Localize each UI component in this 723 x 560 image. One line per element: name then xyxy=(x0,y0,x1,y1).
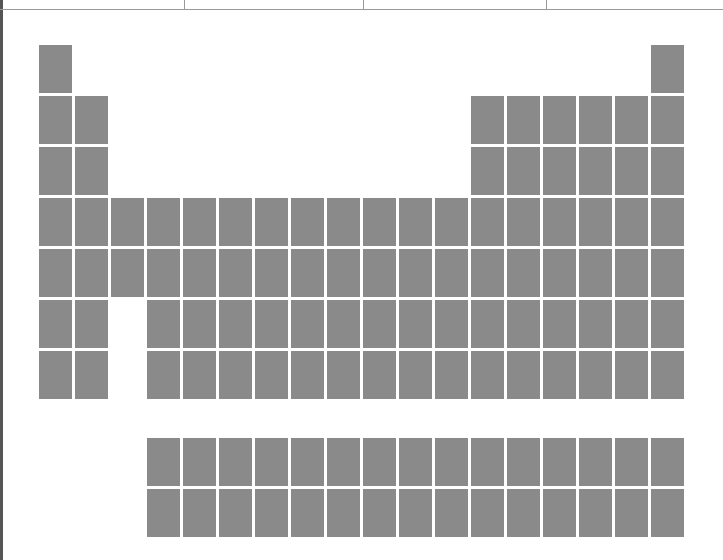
element-cell xyxy=(75,249,108,297)
element-cell xyxy=(363,198,396,246)
element-cell xyxy=(183,249,216,297)
header-divider xyxy=(363,0,364,10)
element-cell xyxy=(651,249,684,297)
element-cell xyxy=(39,147,72,195)
f-block-cell xyxy=(363,438,396,486)
f-block-cell xyxy=(435,438,468,486)
element-cell xyxy=(543,351,576,399)
element-cell xyxy=(75,147,108,195)
f-block-cell xyxy=(435,489,468,537)
element-cell xyxy=(579,198,612,246)
element-cell xyxy=(183,300,216,348)
element-cell xyxy=(543,147,576,195)
element-cell xyxy=(147,300,180,348)
f-block-cell xyxy=(291,438,324,486)
element-cell xyxy=(183,198,216,246)
element-cell xyxy=(111,249,144,297)
f-block-cell xyxy=(471,438,504,486)
element-cell xyxy=(291,249,324,297)
element-cell xyxy=(147,249,180,297)
element-cell xyxy=(471,147,504,195)
header-divider xyxy=(184,0,185,10)
element-cell xyxy=(435,249,468,297)
element-cell xyxy=(183,351,216,399)
f-block-cell xyxy=(219,489,252,537)
element-cell xyxy=(615,147,648,195)
element-cell xyxy=(399,300,432,348)
element-cell xyxy=(507,351,540,399)
f-block-cell xyxy=(543,438,576,486)
f-block-cell xyxy=(147,438,180,486)
element-cell xyxy=(219,198,252,246)
element-cell xyxy=(219,300,252,348)
element-cell xyxy=(579,300,612,348)
element-cell xyxy=(651,300,684,348)
element-cell xyxy=(615,300,648,348)
element-cell xyxy=(651,96,684,144)
element-cell xyxy=(543,249,576,297)
element-cell xyxy=(219,351,252,399)
element-cell xyxy=(651,147,684,195)
f-block-cell xyxy=(651,438,684,486)
element-cell xyxy=(507,96,540,144)
element-cell xyxy=(255,249,288,297)
element-cell xyxy=(579,249,612,297)
element-cell xyxy=(327,351,360,399)
element-cell xyxy=(471,96,504,144)
element-cell xyxy=(399,351,432,399)
element-cell xyxy=(471,351,504,399)
element-cell xyxy=(399,198,432,246)
element-cell xyxy=(507,198,540,246)
header-divider xyxy=(546,0,547,10)
element-cell xyxy=(579,351,612,399)
f-block-cell xyxy=(399,489,432,537)
element-cell xyxy=(39,198,72,246)
element-cell xyxy=(435,198,468,246)
header-line xyxy=(0,9,723,10)
element-cell xyxy=(471,198,504,246)
f-block-cell xyxy=(399,438,432,486)
element-cell xyxy=(435,351,468,399)
f-block-cell xyxy=(255,438,288,486)
element-cell xyxy=(507,300,540,348)
element-cell xyxy=(615,96,648,144)
f-block-cell xyxy=(327,489,360,537)
element-cell xyxy=(507,147,540,195)
element-cell xyxy=(147,351,180,399)
element-cell xyxy=(471,300,504,348)
element-cell xyxy=(147,198,180,246)
element-cell xyxy=(291,300,324,348)
f-block-cell xyxy=(147,489,180,537)
element-cell xyxy=(363,300,396,348)
element-cell xyxy=(543,198,576,246)
element-cell xyxy=(39,300,72,348)
f-block-cell xyxy=(327,438,360,486)
element-cell xyxy=(39,45,72,93)
f-block-cell xyxy=(363,489,396,537)
element-cell xyxy=(543,96,576,144)
f-block-cell xyxy=(507,438,540,486)
f-block-cell xyxy=(507,489,540,537)
element-cell xyxy=(471,249,504,297)
element-cell xyxy=(39,249,72,297)
element-cell xyxy=(363,249,396,297)
element-cell xyxy=(75,198,108,246)
element-cell xyxy=(615,351,648,399)
element-cell xyxy=(327,300,360,348)
element-cell xyxy=(255,300,288,348)
element-cell xyxy=(651,351,684,399)
element-cell xyxy=(435,300,468,348)
element-cell xyxy=(327,198,360,246)
element-cell xyxy=(579,96,612,144)
element-cell xyxy=(615,249,648,297)
element-cell xyxy=(399,249,432,297)
element-cell xyxy=(507,249,540,297)
element-cell xyxy=(651,198,684,246)
element-cell xyxy=(111,198,144,246)
element-cell xyxy=(579,147,612,195)
element-cell xyxy=(363,351,396,399)
element-cell xyxy=(39,96,72,144)
element-cell xyxy=(39,351,72,399)
element-cell xyxy=(219,249,252,297)
element-cell xyxy=(255,351,288,399)
